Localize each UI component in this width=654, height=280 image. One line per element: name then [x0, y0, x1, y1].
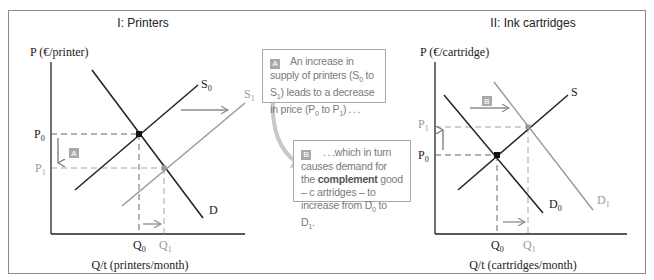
supply-curve-s1-printers: [122, 103, 245, 206]
label-s-cartridges: S: [571, 85, 578, 99]
label-p0-cartridges: P0: [418, 148, 429, 164]
y-axis-label-printers: P (€/printer): [30, 45, 89, 59]
annotation-note-a: AAn increase in supply of printers (S0 t…: [262, 49, 386, 103]
panel-title-printers: I: Printers: [117, 16, 168, 30]
equilibrium-e1-printers: [162, 166, 167, 171]
label-d1-cartridges: D1: [597, 193, 610, 209]
badge-a: A: [270, 59, 280, 69]
equilibrium-e1-cartridges: [526, 125, 531, 130]
label-d-printers: D: [209, 203, 218, 217]
label-q0-printers: Q0: [133, 238, 146, 254]
svg-text:B: B: [484, 97, 490, 106]
y-axis-label-cartridges: P (€/cartridge): [420, 45, 489, 59]
x-axis-label-cartridges: Q/t (cartridges/month): [469, 258, 577, 272]
demand-curve-d0-cartridges: [444, 95, 543, 213]
panel-printers: I: Printers P (€/printer) Q/t (printers/…: [30, 16, 255, 272]
demand-curve-printers: [92, 70, 203, 218]
panel-ink-cartridges: II: Ink cartridges P (€/cartridge) Q/t (…: [418, 16, 627, 272]
annotation-note-b: B . . .which in turn causes demand for t…: [293, 140, 411, 202]
label-s1-printers: S1: [244, 87, 255, 103]
label-p0-printers: P0: [34, 127, 45, 143]
label-q0-cartridges: Q0: [491, 238, 504, 254]
x-axis-label-printers: Q/t (printers/month): [92, 258, 189, 272]
label-q1-cartridges: Q1: [523, 238, 536, 254]
label-p1-cartridges: P1: [418, 117, 429, 133]
equilibrium-e0-printers: [136, 131, 142, 137]
svg-text:A: A: [71, 149, 77, 158]
panel-title-cartridges: II: Ink cartridges: [490, 16, 575, 30]
supply-curve-cartridges: [458, 95, 568, 190]
badge-b: B: [301, 150, 311, 160]
supply-curve-s0-printers: [75, 85, 198, 190]
equilibrium-e0-cartridges: [494, 152, 500, 158]
label-q1-printers: Q1: [159, 238, 172, 254]
label-p1-printers: P1: [35, 161, 46, 177]
label-d0-cartridges: D0: [549, 197, 562, 213]
label-s0-printers: S0: [201, 77, 212, 93]
